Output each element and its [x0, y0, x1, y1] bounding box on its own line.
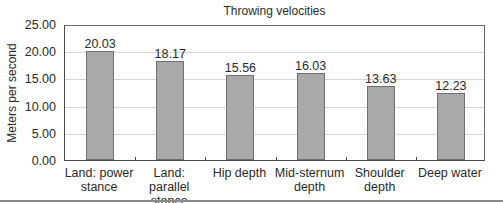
x-category-label-line: Mid-sternum: [275, 166, 345, 180]
x-tick-mark: [276, 157, 277, 161]
bar-value-label: 15.56: [210, 61, 270, 75]
x-category-label-line: Land: parallel: [134, 166, 204, 194]
bar: [367, 86, 395, 160]
y-tick-label: 0.00: [6, 154, 56, 168]
y-tick-label: 20.00: [6, 45, 56, 59]
bar: [226, 75, 254, 160]
x-tick-mark: [135, 157, 136, 161]
x-category-label: Hip depth: [204, 166, 274, 180]
x-category-label-line: Land: power: [64, 166, 134, 180]
y-tick-label: 10.00: [6, 100, 56, 114]
x-category-label-line: Deep water: [415, 166, 485, 180]
plot-area: 20.0318.1715.5616.0313.6312.23: [64, 25, 485, 161]
x-category-label-line: Hip depth: [204, 166, 274, 180]
bar-value-label: 16.03: [281, 59, 341, 73]
x-category-label: Land: parallelstance: [134, 166, 204, 203]
y-tick-label: 15.00: [6, 72, 56, 86]
bar: [297, 73, 325, 160]
x-tick-mark: [205, 157, 206, 161]
bar: [156, 61, 184, 160]
gridline: [65, 52, 484, 53]
x-category-label: Deep water: [415, 166, 485, 180]
bar-value-label: 20.03: [70, 37, 130, 51]
bar-value-label: 12.23: [421, 79, 481, 93]
x-category-label-line: depth: [345, 180, 415, 194]
bar-value-label: 13.63: [351, 72, 411, 86]
y-tick-label: 25.00: [6, 18, 56, 32]
chart-title: Throwing velocities: [64, 4, 485, 18]
bar-chart: Throwing velocities Meters per second 0.…: [0, 0, 503, 203]
x-tick-mark: [346, 157, 347, 161]
x-category-label: Shoulderdepth: [345, 166, 415, 194]
gridline: [65, 134, 484, 135]
x-category-label-line: Shoulder: [345, 166, 415, 180]
x-category-label-line: depth: [275, 180, 345, 194]
bottom-divider: [0, 200, 503, 202]
bar: [86, 51, 114, 160]
x-tick-mark: [416, 157, 417, 161]
x-category-label: Land: powerstance: [64, 166, 134, 194]
x-category-label: Mid-sternumdepth: [275, 166, 345, 194]
x-category-label-line: stance: [64, 180, 134, 194]
y-tick-label: 5.00: [6, 127, 56, 141]
gridline: [65, 107, 484, 108]
bar-value-label: 18.17: [140, 47, 200, 61]
bar: [437, 93, 465, 160]
